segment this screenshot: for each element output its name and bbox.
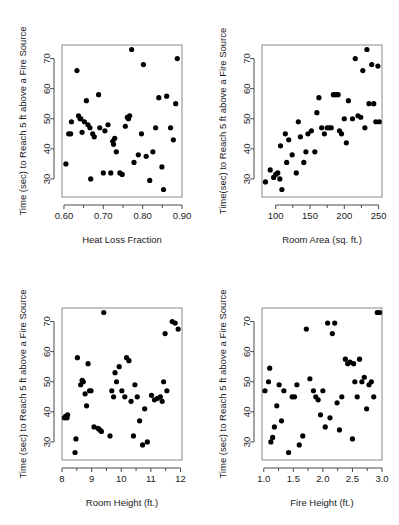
data-point [355,394,360,399]
data-point [320,388,325,393]
x-axis-title: Room Area (sq. ft.) [282,234,362,245]
scatter-panel-heat-loss-fraction: 0.600.700.800.903040506070Heat Loss Frac… [0,0,199,262]
data-point [294,170,299,175]
data-point [73,436,78,441]
data-point [150,149,155,154]
data-point [350,436,355,441]
data-point [126,358,131,363]
plot-svg: 0.600.700.800.903040506070Heat Loss Frac… [0,0,199,262]
data-point [362,375,367,380]
y-tick-label: 30 [42,174,53,185]
data-point [176,326,181,331]
data-point [342,116,347,121]
data-point [81,379,86,384]
x-tick-label: 3.0 [375,473,388,484]
data-point [290,152,295,157]
data-point [112,136,117,141]
data-point [101,170,106,175]
y-tick-label: 30 [242,174,253,185]
data-point [343,357,348,362]
data-point [158,394,163,399]
y-tick-label: 70 [42,53,53,64]
y-tick-label: 50 [42,376,53,387]
data-point [303,149,308,154]
data-point [96,92,101,97]
y-axis-title: Time(sec) to Reach 5 ft above a Fire Sou… [217,28,228,215]
data-point [359,379,364,384]
data-point [277,176,282,181]
y-tick-label: 40 [242,407,253,418]
data-point [142,406,147,411]
data-point [296,119,301,124]
x-tick-label: 0.70 [94,210,113,221]
y-tick-label: 60 [42,346,53,357]
data-point [330,331,335,336]
y-tick-label: 30 [242,437,253,448]
data-point [131,433,136,438]
data-point [131,160,136,165]
data-point [371,101,376,106]
data-point [132,382,137,387]
data-point [92,134,97,139]
x-tick-label: 12 [175,473,186,484]
data-point [311,388,316,393]
data-point [173,101,178,106]
y-tick-label: 50 [242,376,253,387]
plot-svg: 891011123040506070Room Height (ft.)Time … [0,263,199,525]
data-point [137,418,142,423]
data-point [360,68,365,73]
data-point [371,394,376,399]
data-point [351,361,356,366]
x-tick-label: 11 [146,473,156,484]
data-point [123,124,128,129]
y-axis-title: Time (sec) to Reach 5 ft above a Fire So… [17,289,28,478]
data-point [122,394,127,399]
data-point [139,131,144,136]
x-tick-label: 2.0 [316,473,329,484]
data-point [286,450,291,455]
data-point [357,357,362,362]
data-point [284,160,289,165]
y-axis-title: Time (sec) to Reach 5 ft above a Fire So… [217,289,228,478]
data-point [277,382,282,387]
data-point [128,399,133,404]
data-point [75,355,80,360]
data-point [160,399,165,404]
data-point [283,131,288,136]
data-point [120,172,125,177]
data-point [329,125,334,130]
data-point [337,427,342,432]
plot-svg: 1.01.52.02.53.03040506070Fire Height (ft… [200,263,399,525]
data-point [111,142,116,147]
data-point [101,310,106,315]
y-tick-label: 40 [242,144,253,155]
data-point [352,379,357,384]
data-point [163,331,168,336]
x-tick-label: 9 [89,473,94,484]
data-point [346,98,351,103]
data-point [323,424,328,429]
data-point [161,187,166,192]
data-point [153,125,158,130]
y-tick-label: 40 [42,144,53,155]
data-point [84,98,89,103]
data-point [322,131,327,136]
scatter-panel-fire-height: 1.01.52.02.53.03040506070Fire Height (ft… [200,263,399,525]
data-point [369,379,374,384]
data-point [278,143,283,148]
data-point [339,394,344,399]
data-point [358,115,363,120]
scatterplot-matrix-figure: 0.600.700.800.903040506070Heat Loss Frac… [0,0,399,525]
x-tick-label: 250 [371,210,387,221]
x-tick-label: 200 [336,210,352,221]
y-tick-label: 70 [242,316,253,327]
data-point [362,125,367,130]
data-point [377,310,382,315]
data-point [145,439,150,444]
x-tick-label: 1.0 [257,473,270,484]
x-tick-label: 0.80 [133,210,152,221]
data-point [316,397,321,402]
data-point [312,149,317,154]
data-point [297,442,302,447]
x-tick-label: 0.60 [55,210,74,221]
